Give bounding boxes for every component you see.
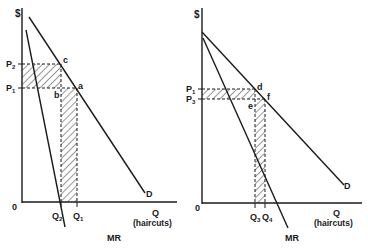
left-origin-label: 0 bbox=[12, 202, 17, 212]
left-q2-label: Q2 bbox=[52, 211, 63, 222]
right-q3-label: Q3 bbox=[250, 212, 261, 223]
left-hatch-quantity-loss-area bbox=[61, 88, 77, 202]
right-point-e: e bbox=[248, 101, 253, 111]
right-q4-label: Q4 bbox=[262, 212, 273, 223]
right-demand-label: D bbox=[344, 181, 351, 191]
right-mr-label: MR bbox=[285, 233, 299, 243]
left-x-axis-unit: (haircuts) bbox=[133, 218, 172, 228]
left-hatch-price-gain-area bbox=[22, 64, 61, 88]
right-y-axis-label: $ bbox=[194, 9, 200, 20]
left-p2-label: P2 bbox=[6, 59, 16, 70]
left-point-c: c bbox=[63, 55, 68, 65]
left-mr-label: MR bbox=[107, 233, 121, 243]
right-point-d: d bbox=[257, 82, 263, 92]
right-demand-curve bbox=[202, 32, 344, 185]
left-p1-label: P1 bbox=[6, 83, 16, 94]
left-point-a: a bbox=[78, 81, 84, 91]
right-p3-label: P3 bbox=[186, 94, 196, 105]
right-hatch-quantity-gain-area bbox=[255, 99, 265, 203]
left-mr-curve bbox=[26, 30, 65, 227]
left-y-axis-label: $ bbox=[15, 8, 21, 19]
left-panel: $ 0 P2 P1 c a b Q2 Q1 D Q (haircuts) MR bbox=[6, 8, 177, 243]
right-origin-label: 0 bbox=[195, 203, 200, 213]
left-demand-label: D bbox=[146, 189, 153, 199]
right-point-f: f bbox=[267, 92, 271, 102]
left-demand-curve bbox=[29, 17, 145, 193]
right-mr-curve bbox=[203, 38, 288, 228]
left-point-b: b bbox=[54, 90, 60, 100]
left-q1-label: Q1 bbox=[73, 211, 84, 222]
left-x-axis-label: Q bbox=[152, 208, 159, 218]
right-panel: $ 0 P1 P3 d f e Q3 Q4 D Q (haircuts) MR bbox=[186, 8, 362, 243]
right-x-axis-unit: (haircuts) bbox=[314, 218, 353, 228]
right-x-axis-label: Q bbox=[333, 208, 340, 218]
monopoly-price-change-diagram: $ 0 P2 P1 c a b Q2 Q1 D Q (haircuts) MR bbox=[0, 0, 368, 250]
